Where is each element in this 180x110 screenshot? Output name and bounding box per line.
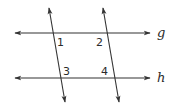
angle-label-2: 2 — [96, 36, 103, 49]
transversal-lines — [49, 8, 119, 102]
parallel-lines — [15, 33, 150, 78]
parallel-lines-diagram: gh 1234 — [0, 0, 180, 110]
line-label-h: h — [157, 70, 165, 85]
line-labels: gh — [157, 25, 165, 85]
left-transversal — [49, 8, 65, 102]
right-transversal — [103, 8, 119, 102]
angle-label-3: 3 — [63, 65, 70, 78]
line-label-g: g — [157, 25, 165, 40]
angle-label-1: 1 — [57, 36, 64, 49]
angle-label-4: 4 — [101, 65, 108, 78]
angle-labels: 1234 — [57, 36, 108, 78]
